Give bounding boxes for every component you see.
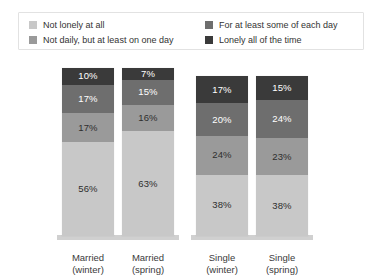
bar-group-single-winter: 17%20%24%38% [196, 76, 248, 236]
bar-segment-label: 20% [212, 115, 231, 125]
bar-segment: 24% [196, 136, 248, 175]
bar-segment: 10% [62, 68, 114, 85]
legend-swatch-not-daily-but-at-least-on-one-day [29, 36, 37, 44]
x-axis-tick-single-spring: Single (spring) [246, 252, 318, 276]
x-axis-tick-line2: (spring) [246, 264, 318, 276]
bar-segment-label: 38% [272, 201, 291, 211]
legend-swatch-not-lonely-at-all [29, 21, 37, 29]
legend-item-lonely-all-of-the-time: Lonely all of the time [205, 33, 338, 47]
bar-group-single-spring: 15%24%23%38% [256, 76, 308, 236]
bar-segment-label: 63% [138, 179, 157, 189]
bar-segment-label: 7% [141, 69, 155, 79]
bar-segment-label: 15% [272, 83, 291, 93]
legend-swatch-lonely-all-of-the-time [205, 36, 213, 44]
bar-segment-label: 10% [78, 71, 97, 81]
bar-segment: 7% [122, 68, 174, 80]
legend-item-not-daily-but-at-least-on-one-day: Not daily, but at least on one day [29, 33, 173, 47]
legend-column-right: For at least some of each day Lonely all… [205, 18, 338, 48]
bar-segment: 23% [256, 138, 308, 175]
bar-segment-label: 24% [272, 114, 291, 124]
legend-label-for-at-least-some-of-each-day: For at least some of each day [219, 20, 338, 30]
bar-segment: 15% [122, 80, 174, 105]
bar-segment-label: 17% [78, 94, 97, 104]
legend-label-lonely-all-of-the-time: Lonely all of the time [219, 35, 302, 45]
x-axis-tick-line1: Married [132, 252, 164, 263]
stacked-bar: 15%24%23%38% [256, 76, 308, 236]
bar-segment-label: 24% [212, 150, 231, 160]
bar-segment-label: 23% [272, 152, 291, 162]
bar-segment: 24% [256, 100, 308, 138]
stacked-bar: 7%15%16%63% [122, 68, 174, 236]
bar-segment: 38% [256, 175, 308, 236]
bar-segment: 17% [196, 76, 248, 103]
bar-segment: 17% [62, 85, 114, 114]
chart-plot-area: 10%17%17%56% 7%15%16%63% 17%20%24%38% 15… [0, 56, 380, 278]
legend-column-left: Not lonely at all Not daily, but at leas… [29, 18, 173, 48]
bar-segment: 17% [62, 113, 114, 142]
bar-group-married-spring: 7%15%16%63% [122, 68, 174, 236]
legend-item-not-lonely-at-all: Not lonely at all [29, 18, 173, 32]
x-axis-tick-line1: Single [269, 252, 295, 263]
bar-segment-label: 56% [78, 184, 97, 194]
legend-label-not-lonely-at-all: Not lonely at all [43, 20, 105, 30]
x-axis-tick-line1: Single [209, 252, 235, 263]
bar-segment-label: 16% [138, 113, 157, 123]
bar-segment: 63% [122, 131, 174, 236]
chart-legend: Not lonely at all Not daily, but at leas… [18, 12, 364, 50]
x-axis-tick-married-spring: Married (spring) [112, 252, 184, 276]
x-axis-tick-line2: (spring) [112, 264, 184, 276]
bar-segment-label: 38% [212, 200, 231, 210]
bar-segment-label: 17% [212, 85, 231, 95]
x-axis-tick-line1: Married [72, 252, 104, 263]
bar-group-married-winter: 10%17%17%56% [62, 68, 114, 236]
legend-label-not-daily-but-at-least-on-one-day: Not daily, but at least on one day [43, 35, 173, 45]
legend-item-for-at-least-some-of-each-day: For at least some of each day [205, 18, 338, 32]
bar-segment: 56% [62, 142, 114, 236]
bar-segment-label: 17% [78, 123, 97, 133]
stacked-bar: 10%17%17%56% [62, 68, 114, 236]
bar-segment: 20% [196, 103, 248, 135]
bar-segment: 38% [196, 175, 248, 236]
legend-swatch-for-at-least-some-of-each-day [205, 21, 213, 29]
stacked-bar: 17%20%24%38% [196, 76, 248, 236]
bar-segment: 16% [122, 105, 174, 132]
bar-segment-label: 15% [138, 87, 157, 97]
bar-segment: 15% [256, 76, 308, 100]
